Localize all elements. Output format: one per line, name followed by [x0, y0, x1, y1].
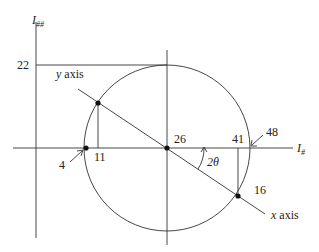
vertical-axis-label: I## [31, 13, 45, 29]
label-16: 16 [254, 183, 266, 197]
arrow-48 [252, 135, 263, 145]
point-x-axis [235, 193, 240, 198]
point-center [164, 145, 169, 150]
label-22: 22 [17, 58, 29, 72]
label-48: 48 [266, 125, 278, 139]
label-4: 4 [59, 158, 65, 172]
angle-label: 2θ [207, 155, 219, 169]
x-axis-label: xaxis [270, 208, 299, 222]
label-41: 41 [232, 132, 244, 146]
point-4 [83, 145, 88, 150]
label-11: 11 [94, 150, 106, 164]
mohr-circle-diagram: I## I# 22 yaxis 4 11 26 41 48 16 2θ xaxi… [0, 0, 319, 252]
arrow-4 [70, 151, 82, 162]
label-26: 26 [174, 132, 186, 146]
horizontal-axis-label: I# [296, 141, 306, 157]
point-y-axis [95, 100, 100, 105]
y-axis-label: yaxis [55, 67, 84, 81]
